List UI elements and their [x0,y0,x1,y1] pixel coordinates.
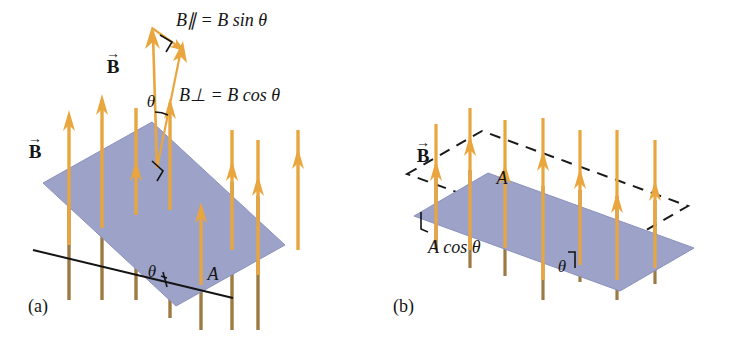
theta-label-b: θ [558,257,566,276]
physics-figure: B → B → B∥ = B sin θ B⊥ = B cos θ θ θ A … [0,0,730,341]
panel-a: B → B → B∥ = B sin θ B⊥ = B cos θ θ θ A … [28,10,304,330]
panel-caption-a: (a) [28,296,48,317]
theta-label-lower-a: θ [148,262,156,281]
theta-label-upper-a: θ [147,92,155,111]
b-vector-arrow-b: → [416,135,430,150]
b-vector-arrow-plane-a: → [28,131,42,146]
b-vector-arrow-upper-a: → [106,46,120,61]
panel-caption-b: (b) [393,296,414,317]
b-parallel-label-a: B∥ = B sin θ [176,10,267,30]
area-label-b: A [496,168,509,188]
area-label-a: A [207,264,220,284]
projected-area-label-b: A cos θ [427,237,481,257]
figure-canvas: B → B → B∥ = B sin θ B⊥ = B cos θ θ θ A … [0,0,730,341]
panel-b: B → A A cos θ θ (b) [393,108,694,317]
b-perp-label-a: B⊥ = B cos θ [179,85,280,105]
